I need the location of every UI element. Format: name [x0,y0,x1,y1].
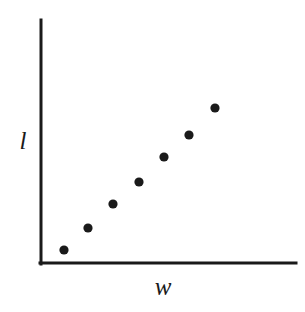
scatter-plot-figure: l w [0,0,305,312]
axes-group [40,20,296,264]
data-point [184,130,193,139]
data-point [83,223,92,232]
x-axis-label: w [145,274,181,299]
plot-canvas [0,0,305,312]
data-point [134,177,143,186]
data-point [210,103,219,112]
data-points-group [59,103,219,254]
data-point [159,152,168,161]
y-axis-label: l [13,128,33,153]
data-point [59,245,68,254]
data-point [108,199,117,208]
